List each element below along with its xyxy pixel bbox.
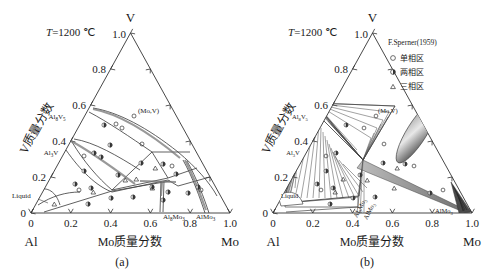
- x-tick-labels: 0 0.2 0.4 0.6 0.8 1.0: [270, 217, 479, 229]
- phase-label-liquid: Liquid: [281, 192, 299, 199]
- legend-label-three-phase: 三相区: [400, 81, 424, 91]
- x-tick-1: 0.2: [64, 217, 78, 229]
- x-tick-3: 0.6: [144, 217, 158, 229]
- phase-label-almo3: AlMo3: [196, 213, 216, 222]
- caption-b: (b): [360, 255, 374, 269]
- phase-label-al8v5: Al8V5: [48, 113, 66, 122]
- corner-label-mo: Mo: [221, 234, 239, 249]
- temperature-label: T=1200 ℃: [288, 26, 337, 38]
- panel-b: 0 0.2 0.4 0.6 0.8 1.0 0 0.2 0.4 0.6 0.8 …: [245, 0, 489, 271]
- phase-label-al3v: Al3V: [286, 149, 300, 158]
- ternary-diagram-b: 0 0.2 0.4 0.6 0.8 1.0 0 0.2 0.4 0.6 0.8 …: [245, 0, 489, 271]
- y-tick-4: 0.8: [334, 63, 348, 75]
- y-tick-3: 0.6: [314, 99, 328, 111]
- legend-label-single-phase: 单相区: [400, 53, 424, 63]
- x-tick-5: 1.0: [223, 217, 237, 229]
- y-axis-title: V质量分数: [16, 99, 57, 156]
- x-axis-title: Mo质量分数: [340, 234, 405, 249]
- y-tick-3: 0.6: [72, 99, 86, 111]
- y-axis-title: V质量分数: [258, 99, 299, 156]
- y-tick-4: 0.8: [92, 63, 106, 75]
- legend-half-filled-circle-icon: [391, 70, 396, 75]
- panel-a-plot: 0 0.2 0.4 0.6 0.8 1.0 0 0.2 0.4 0.6 0.8 …: [0, 0, 244, 271]
- caption-a: (a): [115, 255, 128, 269]
- x-tick-4: 0.8: [425, 217, 439, 229]
- phase-label-mo-v: (Mo,V): [138, 107, 160, 115]
- temperature-label: T=1200 ℃: [46, 26, 95, 38]
- legend-title: F.Sperner(1959): [388, 38, 437, 47]
- apex-label-v: V: [126, 10, 136, 25]
- phase-label-liquid: Liquid: [12, 192, 31, 200]
- temperature-value: =1200 ℃: [52, 26, 95, 38]
- x-tick-1: 0.2: [306, 217, 320, 229]
- x-tick-5: 1.0: [465, 217, 479, 229]
- corner-label-mo: Mo: [463, 234, 481, 249]
- y-tick-0: 0: [263, 207, 269, 219]
- panel-a: 0 0.2 0.4 0.6 0.8 1.0 0 0.2 0.4 0.6 0.8 …: [0, 0, 244, 271]
- y-tick-1: 0.2: [274, 171, 288, 183]
- legend-label-two-phase: 两相区: [400, 67, 424, 77]
- y-tick-1: 0.2: [32, 171, 46, 183]
- x-tick-0: 0: [270, 217, 276, 229]
- apex-label-v: V: [368, 10, 378, 25]
- x-tick-2: 0.4: [104, 217, 118, 229]
- phase-label-al8mo3: Al8Mo3: [163, 213, 185, 222]
- x-tick-2: 0.4: [346, 217, 360, 229]
- temperature-value: =1200 ℃: [294, 26, 337, 38]
- x-tick-3: 0.6: [386, 217, 400, 229]
- phase-label-al3v: Al3V: [44, 149, 59, 158]
- x-tick-0: 0: [28, 217, 34, 229]
- y-tick-2: 0.4: [294, 135, 308, 147]
- y-tick-0: 0: [21, 207, 27, 219]
- phase-label-al8v5: Al8V5: [292, 113, 309, 122]
- phase-label-mo-v: (Mo,V): [378, 107, 398, 115]
- legend-open-circle-icon: [391, 56, 396, 61]
- ternary-diagram-a: 0 0.2 0.4 0.6 0.8 1.0 0 0.2 0.4 0.6 0.8 …: [0, 0, 244, 271]
- y-tick-5: 1.0: [354, 28, 368, 40]
- y-tick-5: 1.0: [112, 28, 126, 40]
- y-tick-2: 0.4: [52, 135, 66, 147]
- corner-label-al: Al: [267, 234, 280, 249]
- corner-label-al: Al: [25, 234, 38, 249]
- panel-b-plot: 0 0.2 0.4 0.6 0.8 1.0 0 0.2 0.4 0.6 0.8 …: [245, 0, 489, 271]
- x-axis-title: Mo质量分数: [98, 234, 163, 249]
